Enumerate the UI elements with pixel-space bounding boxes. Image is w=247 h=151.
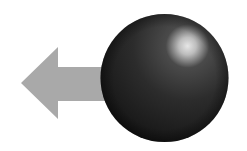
illustration bbox=[0, 0, 247, 151]
arrow-left-icon bbox=[21, 47, 110, 119]
sphere-icon bbox=[101, 14, 229, 142]
illustration-canvas bbox=[0, 0, 247, 151]
